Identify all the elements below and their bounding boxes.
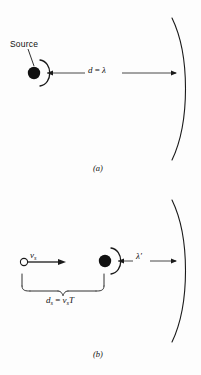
panel-a-distance-value: λ: [102, 65, 106, 75]
panel-b-tag: (b): [93, 350, 103, 359]
panel-a-source-dot: [28, 67, 40, 79]
panel-b-wavelength-arrow: [118, 259, 177, 264]
panel-b-wavelength-label: λ′: [136, 252, 142, 261]
panel-b-velocity-subscript: s: [34, 254, 37, 261]
panel-a-source-label: Source: [10, 40, 38, 49]
panel-b-displacement-period: T: [69, 295, 74, 305]
panel-b-velocity-label: vs: [30, 251, 37, 261]
figure-canvas: Source d = λ (a) vs ds = vsT λ′ (b): [0, 0, 201, 375]
panel-b-far-wavefront-arc: [172, 200, 186, 342]
panel-a-far-wavefront-arc: [172, 18, 186, 160]
panel-a-distance-equals: =: [93, 65, 103, 75]
panel-b-displacement-equals: =: [53, 295, 63, 305]
panel-a-distance-arrow: [47, 71, 177, 76]
panel-a-source-leader-line: [28, 49, 34, 66]
panel-a-tag: (a): [93, 164, 103, 173]
panel-b-displacement-brace: [22, 274, 104, 296]
doppler-diagram: [0, 0, 201, 375]
panel-b-source-dot: [99, 255, 111, 267]
panel-a-distance-label: d = λ: [88, 66, 106, 75]
panel-b-displacement-label: ds = vsT: [46, 296, 74, 306]
panel-b-start-marker-circle: [20, 258, 27, 265]
